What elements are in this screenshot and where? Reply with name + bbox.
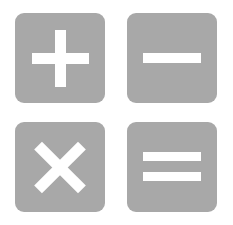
equals-tile[interactable]: [127, 122, 217, 212]
plus-tile[interactable]: [15, 13, 105, 103]
minus-tile[interactable]: [127, 13, 217, 103]
equals-icon-bottom-bar: [143, 172, 201, 181]
times-tile[interactable]: [15, 122, 105, 212]
minus-icon-bar: [143, 53, 201, 63]
equals-icon-top-bar: [143, 152, 201, 161]
plus-icon-vertical-bar: [55, 30, 66, 87]
